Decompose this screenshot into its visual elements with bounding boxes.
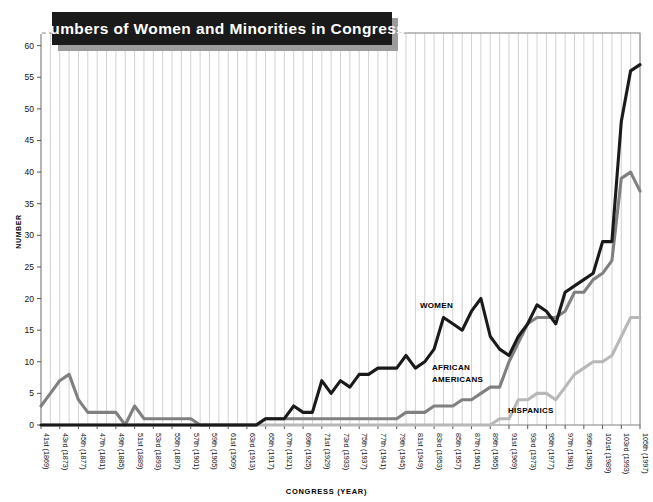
x-axis-tick-label: 67th (1921) (285, 433, 294, 470)
series-annotation-african-americans-line2: AMERICANS (432, 375, 484, 384)
y-axis-tick-label: 50 (25, 104, 35, 114)
x-axis-tick-label: 49th (1885) (117, 433, 126, 470)
y-axis-tick-label: 0 (29, 420, 34, 430)
series-annotation-women: WOMEN (420, 301, 453, 310)
series-annotation-hispanics: HISPANICS (508, 406, 554, 415)
x-axis-tick-label: 83rd (1953) (435, 433, 444, 470)
chart-root: Numbers of Women and Minorities in Congr… (0, 0, 653, 502)
page-title: Numbers of Women and Minorities in Congr… (39, 20, 406, 38)
chart-title-banner: Numbers of Women and Minorities in Congr… (52, 12, 392, 45)
x-axis-tick-label: 61st (1909) (229, 433, 238, 469)
y-axis-tick-label: 55 (25, 72, 35, 82)
x-axis-tick-label: 75th (1937) (360, 433, 369, 470)
x-axis-tick-label: 51st (1889) (136, 433, 145, 469)
x-axis-tick-label: 71st (1929) (323, 433, 332, 469)
x-axis-tick-label: 55th (1897) (173, 433, 182, 470)
x-axis-tick-label: 101st (1989) (604, 433, 613, 473)
x-axis-tick-label: 57th (1901) (192, 433, 201, 470)
x-axis-tick-label: 95th (1977) (547, 433, 556, 470)
x-axis-tick-label: 89th (1965) (491, 433, 500, 470)
x-axis-tick-label: 63rd (1913) (248, 433, 257, 470)
y-axis-tick-label: 5 (29, 388, 34, 398)
y-axis-tick-label: 20 (25, 294, 35, 304)
y-axis-tick-label: 15 (25, 325, 35, 335)
y-axis-tick-label: 40 (25, 167, 35, 177)
series-annotation-african-americans-line1: AFRICAN (432, 363, 470, 372)
x-axis-tick-label: 81st (1949) (416, 433, 425, 469)
y-axis-tick-label: 45 (25, 135, 35, 145)
x-axis-tick-label: 41st (1869) (42, 433, 51, 469)
x-axis-tick-label: 43rd (1873) (61, 433, 70, 470)
x-axis-tick-label: 69th (1925) (304, 433, 313, 470)
y-axis-tick-label: 30 (25, 230, 35, 240)
y-axis-tick-label: 25 (25, 262, 35, 272)
x-axis-tick-label: 47th (1881) (98, 433, 107, 470)
y-axis-tick-label: 10 (25, 357, 35, 367)
x-axis-tick-label: 97th (1981) (566, 433, 575, 470)
x-axis-tick-label: 59th (1905) (210, 433, 219, 470)
x-axis-tick-label: 105th (1997) (641, 433, 650, 474)
x-axis-tick-label: 77th (1941) (379, 433, 388, 470)
x-axis-tick-label: 87th (1961) (473, 433, 482, 470)
x-axis-tick-label: 45th (1877) (79, 433, 88, 470)
y-axis-tick-label: 60 (25, 41, 35, 51)
x-axis-tick-label: 53rd (1893) (154, 433, 163, 470)
x-axis-tick-label: 85th (1957) (454, 433, 463, 470)
y-axis-tick-label: 35 (25, 199, 35, 209)
x-axis-tick-label: 65th (1917) (267, 433, 276, 470)
x-axis-tick-label: 79th (1945) (398, 433, 407, 470)
chart-plot: 05101520253035404550556041st (1869)43rd … (0, 0, 653, 502)
x-axis-tick-label: 93rd (1973) (529, 433, 538, 470)
x-axis-tick-label: 91st (1969) (510, 433, 519, 469)
x-axis-tick-label: 99th (1985) (585, 433, 594, 470)
x-axis-tick-label: 73rd (1933) (342, 433, 351, 470)
x-axis-tick-label: 103rd (1993) (622, 433, 631, 474)
